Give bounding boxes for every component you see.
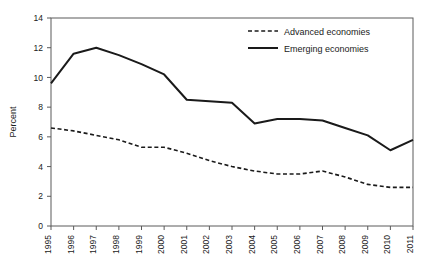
x-axis-tick-label: 2005 (269, 235, 279, 254)
x-axis-tick-label: 2003 (224, 235, 234, 254)
line-chart: 02468101214 1995199619971998199920002001… (0, 0, 428, 276)
x-axis-tick-label: 1995 (43, 235, 53, 254)
y-axis-tick-label: 2 (38, 191, 43, 201)
x-axis: 1995199619971998199920002001200220032004… (43, 226, 415, 254)
x-axis-tick-label: 1999 (134, 235, 144, 254)
x-axis-tick-label: 2011 (405, 235, 415, 254)
y-axis-tick-label: 12 (34, 43, 44, 53)
x-axis-tick-label: 2009 (360, 235, 370, 254)
x-axis-tick-label: 2002 (201, 235, 211, 254)
x-axis-tick-label: 2004 (247, 235, 257, 254)
x-axis-tick-label: 2000 (156, 235, 166, 254)
y-axis-tick-label: 4 (38, 162, 43, 172)
x-axis-tick-label: 1996 (66, 235, 76, 254)
legend-label-emerging-economies: Emerging economies (284, 44, 369, 54)
y-axis-title: Percent (8, 106, 18, 138)
y-axis-tick-label: 10 (34, 73, 44, 83)
y-axis-tick-label: 8 (38, 102, 43, 112)
x-axis-tick-label: 2001 (179, 235, 189, 254)
y-axis: 02468101214 (34, 13, 51, 231)
x-axis-tick-label: 2008 (337, 235, 347, 254)
y-axis-tick-label: 6 (38, 132, 43, 142)
x-axis-tick-label: 2007 (315, 235, 325, 254)
x-axis-tick-label: 1997 (88, 235, 98, 254)
legend-label-advanced-economies: Advanced economies (284, 27, 371, 37)
x-axis-tick-label: 2006 (292, 235, 302, 254)
x-axis-tick-label: 1998 (111, 235, 121, 254)
x-axis-tick-label: 2010 (382, 235, 392, 254)
y-axis-tick-label: 14 (34, 13, 44, 23)
y-axis-tick-label: 0 (38, 221, 43, 231)
chart-container: 02468101214 1995199619971998199920002001… (0, 0, 428, 276)
